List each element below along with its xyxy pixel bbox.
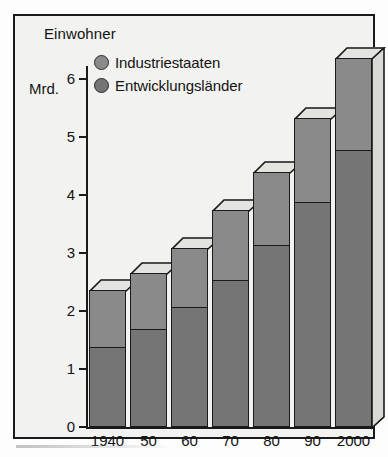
bar-column (335, 58, 372, 427)
bar-side-face (371, 47, 387, 431)
bar-column (89, 290, 126, 427)
bar-segment-industriestaaten (130, 273, 167, 329)
bar-segment-industriestaaten (294, 118, 331, 202)
bar-column (253, 172, 290, 427)
plot-area: Einwohner Mrd. Industriestaaten Entwickl… (15, 16, 373, 437)
bar-segment-industriestaaten (212, 210, 249, 280)
x-axis-tick-label: 2000 (325, 432, 382, 449)
bar-segment-industriestaaten (89, 290, 126, 347)
bar-column (212, 210, 249, 427)
bar-segment-entwicklungslaender (253, 245, 290, 427)
bar-column (130, 273, 167, 427)
bar-segment-industriestaaten (253, 172, 290, 245)
bar-segment-industriestaaten (171, 248, 208, 307)
bar-segment-industriestaaten (335, 58, 372, 150)
bar-segment-entwicklungslaender (171, 307, 208, 427)
bar-series-group (15, 16, 373, 437)
bar-segment-entwicklungslaender (212, 280, 249, 427)
page-canvas: Einwohner Mrd. Industriestaaten Entwickl… (0, 0, 388, 457)
bar-segment-entwicklungslaender (294, 202, 331, 427)
bar-segment-entwicklungslaender (335, 150, 372, 427)
bar-column (294, 118, 331, 427)
scan-artifact (16, 445, 166, 448)
chart-frame: Einwohner Mrd. Industriestaaten Entwickl… (13, 14, 375, 439)
bar-segment-entwicklungslaender (130, 329, 167, 427)
bar-segment-entwicklungslaender (89, 347, 126, 427)
bar-column (171, 248, 208, 427)
